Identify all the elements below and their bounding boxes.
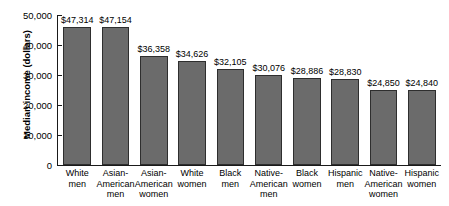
bar-group[interactable]: $34,626 <box>178 15 206 165</box>
bar-group[interactable]: $24,840 <box>408 15 436 165</box>
x-category-label-line: men <box>326 179 364 190</box>
x-category-label: Native-Americanmen <box>250 168 288 200</box>
y-tick-mark <box>58 45 62 46</box>
bar-group[interactable]: $28,830 <box>331 15 359 165</box>
bar-value-label: $24,840 <box>406 78 439 89</box>
x-category-label-line: Black <box>211 168 249 179</box>
bar-rect[interactable] <box>178 61 206 165</box>
x-category-label-line: American <box>96 179 134 190</box>
bar-value-label: $28,830 <box>329 67 362 78</box>
bar-rect[interactable] <box>293 78 321 165</box>
bar-rect[interactable] <box>408 90 436 165</box>
y-tick-label: 0 <box>47 160 52 171</box>
x-category-label: Blackmen <box>211 168 249 189</box>
x-category-label-line: White <box>173 168 211 179</box>
x-category-label-line: American <box>364 179 402 190</box>
bar-rect[interactable] <box>217 69 245 165</box>
x-category-label-line: women <box>403 179 441 190</box>
x-category-label-line: Hispanic <box>326 168 364 179</box>
x-category-label-line: Native- <box>364 168 402 179</box>
x-category-label: Native-Americanwomen <box>364 168 402 200</box>
x-category-label: Whitewomen <box>173 168 211 189</box>
bar-value-label: $28,886 <box>291 66 324 77</box>
bar-group[interactable]: $32,105 <box>217 15 245 165</box>
x-category-label-line: American <box>135 179 173 190</box>
bar-group[interactable]: $24,850 <box>370 15 398 165</box>
x-category-label-line: men <box>250 189 288 200</box>
x-category-label: Hispanicwomen <box>403 168 441 189</box>
x-category-label-line: Hispanic <box>403 168 441 179</box>
bar-value-label: $30,076 <box>252 63 285 74</box>
bar-rect[interactable] <box>140 56 168 165</box>
y-tick-mark <box>58 135 62 136</box>
x-category-label: Asian-Americanmen <box>96 168 134 200</box>
x-category-label-line: Black <box>288 168 326 179</box>
bar-rect[interactable] <box>331 79 359 165</box>
y-tick-label: 40,000 <box>23 40 52 51</box>
bar-rect[interactable] <box>255 75 283 165</box>
x-category-label: Asian-Americanwomen <box>135 168 173 200</box>
y-tick-label: 50,000 <box>23 10 52 21</box>
x-category-label-line: American <box>250 179 288 190</box>
bar-rect[interactable] <box>102 27 130 165</box>
y-tick-mark <box>58 15 62 16</box>
x-axis-line <box>57 165 441 166</box>
bar-value-label: $47,314 <box>61 15 94 26</box>
y-tick-label: 10,000 <box>23 130 52 141</box>
x-category-label-line: Asian- <box>96 168 134 179</box>
bar-group[interactable]: $47,314 <box>63 15 91 165</box>
bar-value-label: $34,626 <box>176 49 209 60</box>
x-category-label-line: women <box>364 189 402 200</box>
x-category-label-line: Native- <box>250 168 288 179</box>
x-category-label: Hispanicmen <box>326 168 364 189</box>
bar-group[interactable]: $47,154 <box>102 15 130 165</box>
plot-area: $47,314$47,154$36,358$34,626$32,105$30,0… <box>58 15 441 165</box>
x-category-label-line: women <box>173 179 211 190</box>
y-tick-mark <box>58 75 62 76</box>
bar-rect[interactable] <box>370 90 398 165</box>
bar-group[interactable]: $36,358 <box>140 15 168 165</box>
y-axis-tick-labels: 010,00020,00030,00040,00050,000 <box>0 0 52 206</box>
y-tick-label: 20,000 <box>23 100 52 111</box>
y-tick-label: 30,000 <box>23 70 52 81</box>
x-category-label-line: Asian- <box>135 168 173 179</box>
bar-group[interactable]: $28,886 <box>293 15 321 165</box>
x-category-label: Whitemen <box>58 168 96 189</box>
bar-value-label: $47,154 <box>99 15 132 26</box>
x-category-label-line: White <box>58 168 96 179</box>
x-category-label-line: men <box>211 179 249 190</box>
y-tick-mark <box>58 105 62 106</box>
bar-group[interactable]: $30,076 <box>255 15 283 165</box>
x-axis-category-labels: WhitemenAsian-AmericanmenAsian-Americanw… <box>58 168 441 206</box>
bar-value-label: $32,105 <box>214 57 247 68</box>
bar-value-label: $36,358 <box>137 44 170 55</box>
bar-value-label: $24,850 <box>367 78 400 89</box>
x-category-label-line: men <box>96 189 134 200</box>
x-category-label-line: men <box>58 179 96 190</box>
x-category-label-line: women <box>288 179 326 190</box>
bar-chart: Median income (dollars) 010,00020,00030,… <box>0 0 449 206</box>
bar-rect[interactable] <box>63 27 91 165</box>
x-category-label: Blackwomen <box>288 168 326 189</box>
x-category-label-line: women <box>135 189 173 200</box>
